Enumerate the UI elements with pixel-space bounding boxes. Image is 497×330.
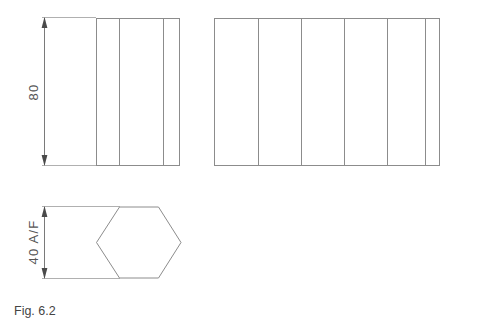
hexagon-plan-view xyxy=(97,207,182,278)
figure-canvas: 80 40 A/F xyxy=(0,0,497,330)
side-elevation-view xyxy=(215,19,440,166)
arrow-head-down-80 xyxy=(42,155,48,166)
figure-caption: Fig. 6.2 xyxy=(14,304,56,318)
side-elevation-outline xyxy=(215,19,440,166)
arrow-head-up-80 xyxy=(42,17,48,28)
dimension-label-80: 80 xyxy=(26,84,41,101)
arrow-head-down-40af xyxy=(42,268,48,279)
dimension-40af-group: 40 A/F xyxy=(26,206,120,279)
dimension-80-group: 80 xyxy=(26,17,96,166)
hexagon-outline xyxy=(97,207,182,278)
dimension-label-40af: 40 A/F xyxy=(26,220,41,265)
front-elevation-view xyxy=(97,19,180,166)
arrow-head-up-40af xyxy=(42,206,48,217)
front-elevation-outline xyxy=(97,19,180,166)
engineering-drawing-figure: 80 40 A/F xyxy=(0,0,497,330)
